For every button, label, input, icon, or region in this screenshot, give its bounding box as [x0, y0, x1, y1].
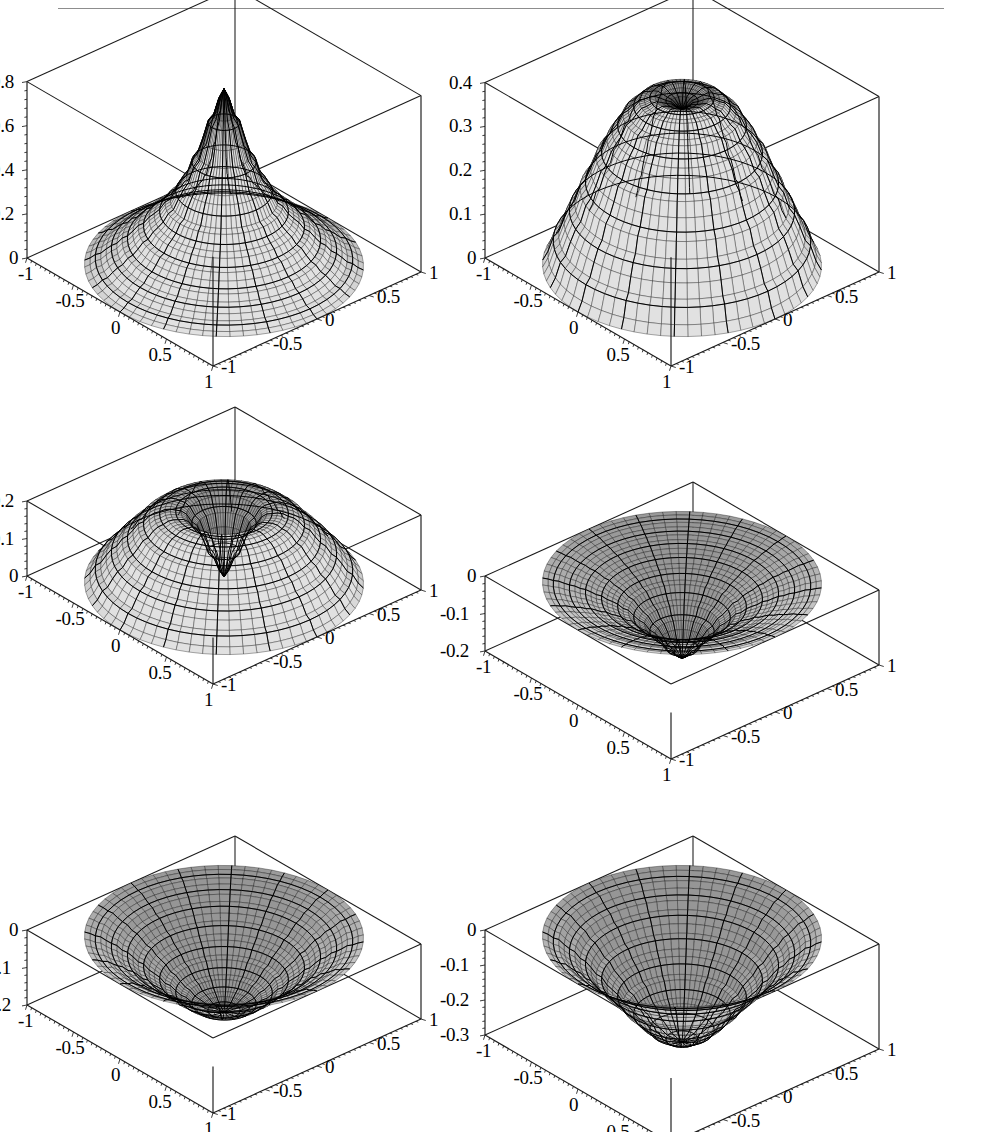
plot-3-z-tick-1: 0.1 — [0, 529, 14, 548]
plot-4-x-tick-0: -1 — [476, 657, 491, 676]
plot-2-x-tick-2: 0 — [569, 318, 578, 337]
plot-3-y-tick-0: 1 — [429, 581, 438, 600]
plot-1-z-tick-2: 0.4 — [0, 160, 14, 179]
plot-6-x-tick-3: 0.5 — [607, 1122, 630, 1132]
plot-1-z-tick-0: 0.8 — [0, 72, 14, 91]
plot-5-surface-mesh — [85, 865, 364, 1020]
plot-6-z-tick-3: -0.3 — [440, 1025, 469, 1044]
plot-4-y-tick-3: -0.5 — [731, 727, 760, 746]
plot-2-y-tick-1: 0.5 — [835, 287, 858, 306]
plot-3-x-tick-3: 0.5 — [149, 663, 172, 682]
plot-2-x-tick-1: -0.5 — [514, 291, 543, 310]
plot-2-x-tick-3: 0.5 — [607, 345, 630, 364]
plot-panel-6: -1-0.500.5110.50-0.5-10-0.1-0.2-0.3 — [486, 752, 986, 1118]
plot-1-x-tick-0: -1 — [18, 264, 33, 283]
plot-1-y-tick-4: -1 — [221, 357, 236, 376]
plot-4-canvas — [486, 398, 986, 764]
plot-1-y-tick-1: 0.5 — [377, 287, 400, 306]
plot-panel-5: -1-0.500.5110.50-0.5-10-0.1-0.2 — [28, 752, 528, 1118]
plot-5-canvas — [28, 752, 528, 1118]
plot-4-y-tick-0: 1 — [887, 656, 896, 675]
plot-2-surface-mesh — [543, 79, 822, 336]
plot-5-y-tick-4: -1 — [221, 1104, 236, 1123]
plot-panel-3: -1-0.500.5110.50-0.5-10.20.10 — [28, 398, 528, 764]
plot-2-z-tick-4: 0 — [467, 248, 476, 267]
plot-6-x-tick-1: -0.5 — [514, 1068, 543, 1087]
plot-4-x-tick-1: -0.5 — [514, 684, 543, 703]
plot-2-z-tick-2: 0.2 — [449, 160, 472, 179]
plot-2-z-tick-3: 0.1 — [449, 204, 472, 223]
plot-1-z-tick-4: 0 — [9, 248, 18, 267]
plot-5-x-tick-3: 0.5 — [149, 1092, 172, 1111]
header-rule — [58, 8, 944, 9]
plot-5-z-tick-2: -0.2 — [0, 995, 11, 1014]
plot-6-y-tick-1: 0.5 — [835, 1064, 858, 1083]
plot-6-y-tick-2: 0 — [783, 1087, 792, 1106]
plot-4-y-tick-1: 0.5 — [835, 680, 858, 699]
plot-1-x-tick-3: 0.5 — [149, 345, 172, 364]
plot-3-y-tick-3: -0.5 — [273, 652, 302, 671]
plot-6-x-tick-0: -1 — [476, 1041, 491, 1060]
plot-6-canvas — [486, 752, 986, 1118]
plot-1-x-tick-2: 0 — [111, 318, 120, 337]
plot-6-x-tick-2: 0 — [569, 1095, 578, 1114]
plot-5-y-tick-1: 0.5 — [377, 1034, 400, 1053]
plot-5-y-tick-0: 1 — [429, 1010, 438, 1029]
plot-6-surface-mesh — [543, 865, 822, 1047]
plot-1-y-tick-3: -0.5 — [273, 334, 302, 353]
plot-1-x-tick-4: 1 — [204, 372, 213, 391]
plot-4-x-tick-2: 0 — [569, 711, 578, 730]
plot-5-x-tick-4: 1 — [204, 1119, 213, 1132]
plot-1-y-tick-2: 0 — [325, 310, 334, 329]
plot-5-x-tick-1: -0.5 — [56, 1038, 85, 1057]
plot-3-canvas — [28, 398, 528, 764]
plot-3-y-tick-4: -1 — [221, 675, 236, 694]
plot-1-x-tick-1: -0.5 — [56, 291, 85, 310]
plot-1-z-tick-3: 0.2 — [0, 204, 14, 223]
plot-panel-2: -1-0.500.5110.50-0.5-10.40.30.20.10 — [486, 22, 986, 388]
plot-1-y-tick-0: 1 — [429, 263, 438, 282]
plot-5-z-tick-0: 0 — [9, 920, 18, 939]
plot-3-x-tick-1: -0.5 — [56, 609, 85, 628]
plot-2-z-tick-1: 0.3 — [449, 116, 472, 135]
plot-2-x-tick-0: -1 — [476, 264, 491, 283]
plot-4-y-tick-2: 0 — [783, 703, 792, 722]
plot-3-x-tick-4: 1 — [204, 690, 213, 709]
plot-6-y-tick-0: 1 — [887, 1040, 896, 1059]
plot-5-x-tick-0: -1 — [18, 1011, 33, 1030]
plot-2-y-tick-2: 0 — [783, 310, 792, 329]
plot-5-y-tick-2: 0 — [325, 1057, 334, 1076]
plot-2-x-tick-4: 1 — [662, 372, 671, 391]
plot-5-x-tick-2: 0 — [111, 1065, 120, 1084]
plot-4-z-tick-1: -0.1 — [440, 604, 469, 623]
plot-2-y-tick-3: -0.5 — [731, 334, 760, 353]
plot-4-z-tick-0: 0 — [467, 566, 476, 585]
plot-1-z-tick-1: 0.6 — [0, 116, 14, 135]
plot-5-y-tick-3: -0.5 — [273, 1081, 302, 1100]
plot-4-z-tick-2: -0.2 — [440, 641, 469, 660]
plot-2-y-tick-4: -1 — [679, 357, 694, 376]
plot-2-y-tick-0: 1 — [887, 263, 896, 282]
plot-6-y-tick-3: -0.5 — [731, 1111, 760, 1130]
plot-5-z-tick-1: -0.1 — [0, 958, 11, 977]
plot-3-x-tick-0: -1 — [18, 582, 33, 601]
plot-3-y-tick-1: 0.5 — [377, 605, 400, 624]
plot-2-z-tick-0: 0.4 — [449, 73, 472, 92]
plot-3-z-tick-2: 0 — [9, 566, 18, 585]
plot-3-z-tick-0: 0.2 — [0, 491, 14, 510]
plot-3-y-tick-2: 0 — [325, 628, 334, 647]
plot-6-z-tick-1: -0.1 — [440, 955, 469, 974]
plot-6-z-tick-0: 0 — [467, 920, 476, 939]
plot-3-x-tick-2: 0 — [111, 636, 120, 655]
plot-6-z-tick-2: -0.2 — [440, 990, 469, 1009]
plot-4-surface-mesh — [543, 511, 822, 658]
plot-panel-4: -1-0.500.5110.50-0.5-10-0.1-0.2 — [486, 398, 986, 764]
